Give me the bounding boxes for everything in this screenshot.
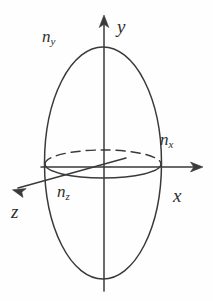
- label-n-x: nx: [160, 131, 173, 148]
- label-y-axis: y: [117, 17, 125, 36]
- z-axis-arrowhead-icon: [13, 189, 27, 198]
- y-axis: [99, 15, 109, 291]
- x-axis: [41, 162, 203, 172]
- label-z-axis: z: [11, 202, 18, 221]
- ellipsoid-drawing: [0, 0, 213, 301]
- label-n-y: ny: [42, 28, 55, 45]
- label-n-z-subscript: z: [66, 190, 70, 202]
- label-n-z-base: n: [57, 182, 66, 201]
- index-ellipsoid-figure: ny y nx x nz z: [0, 0, 213, 301]
- label-n-z: nz: [57, 183, 70, 200]
- z-axis-line: [18, 158, 126, 188]
- label-n-y-base: n: [42, 27, 51, 46]
- ellipsoid-outline: [45, 47, 162, 279]
- label-n-y-subscript: y: [51, 35, 56, 47]
- label-x-axis: x: [173, 186, 181, 205]
- label-n-x-subscript: x: [169, 138, 174, 150]
- label-n-x-base: n: [160, 130, 169, 149]
- equator-back-arc-dashed: [45, 150, 161, 164]
